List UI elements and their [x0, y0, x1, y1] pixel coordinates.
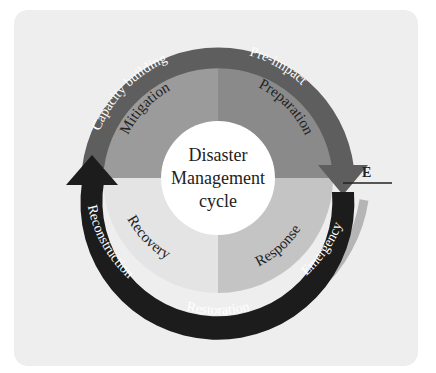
svg-text:Restoration: Restoration: [185, 299, 250, 318]
event-marker-label: E: [362, 165, 371, 180]
center-title-line-1: Disaster: [189, 145, 248, 165]
center-title-line-3: cycle: [199, 191, 237, 211]
disaster-cycle-diagram: Disaster Management cycle Mitigation Pre…: [0, 0, 436, 373]
center-title-line-2: Management: [171, 168, 265, 188]
label-restoration: Restoration: [185, 299, 250, 318]
